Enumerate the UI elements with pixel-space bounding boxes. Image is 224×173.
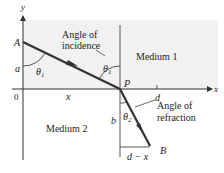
segment-d-minus-x-label: d − x — [127, 151, 149, 162]
point-b-label: B — [160, 145, 166, 156]
refraction-label-line2: refraction — [157, 112, 196, 123]
segment-a-label: a — [15, 63, 20, 74]
origin-label: 0 — [14, 92, 19, 102]
refraction-diagram: y x 0 A P B a b x d d − x θ1 θ1 θ2 Angle… — [0, 0, 224, 173]
medium-1-region — [23, 20, 218, 89]
point-p-label: P — [123, 78, 130, 89]
incidence-label-line1: Angle of — [62, 29, 98, 40]
x-axis-label: x — [213, 84, 218, 94]
incidence-label-line2: incidence — [62, 40, 101, 51]
theta2-arc — [120, 102, 127, 103]
point-a-label: A — [13, 37, 21, 48]
theta2-label: θ2 — [123, 111, 132, 124]
medium-2-label: Medium 2 — [46, 123, 87, 134]
y-axis-label: y — [20, 2, 25, 12]
refracted-arrow-icon — [136, 123, 143, 133]
segment-x-label: x — [65, 91, 71, 102]
medium-1-label: Medium 1 — [136, 51, 177, 62]
segment-b-label: b — [111, 115, 116, 126]
refraction-label-line1: Angle of — [157, 100, 193, 111]
refraction-leader — [135, 100, 155, 107]
